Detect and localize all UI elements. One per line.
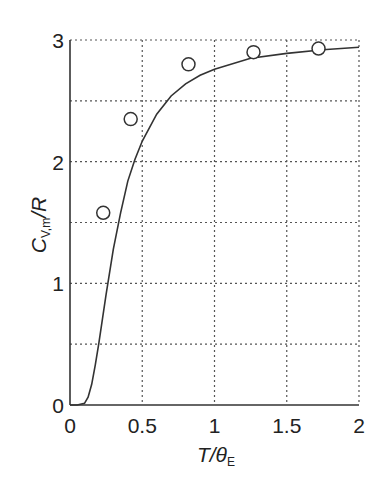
- data-point-circle: [312, 42, 325, 55]
- experimental-points: [97, 42, 325, 219]
- data-point-circle: [247, 46, 260, 59]
- grid-lines: [70, 40, 359, 405]
- y-tick-labels: 0123: [52, 29, 64, 417]
- y-axis-label: CV,m/R: [27, 197, 53, 253]
- data-point-circle: [97, 206, 110, 219]
- y-tick-label: 0: [52, 394, 64, 417]
- y-tick-label: 2: [52, 151, 64, 174]
- x-tick-label: 2: [353, 414, 365, 437]
- x-axis-label: T/θE: [197, 443, 235, 469]
- x-tick-label: 1: [209, 414, 221, 437]
- data-point-circle: [124, 113, 137, 126]
- x-tick-label: 1.5: [272, 414, 301, 437]
- x-tick-label: 0: [64, 414, 76, 437]
- y-tick-label: 1: [52, 272, 64, 295]
- data-point-circle: [182, 58, 195, 71]
- y-tick-label: 3: [52, 29, 64, 52]
- heat-capacity-chart: 00.511.52 0123 T/θE CV,m/R: [0, 0, 386, 481]
- x-tick-labels: 00.511.52: [64, 414, 365, 437]
- x-tick-label: 0.5: [128, 414, 157, 437]
